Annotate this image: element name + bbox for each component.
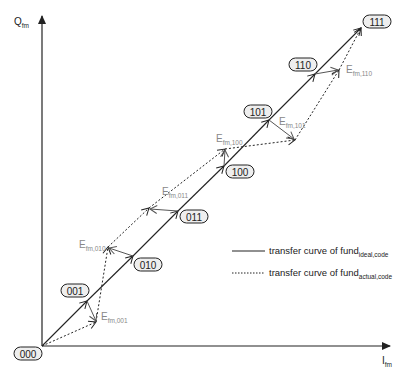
svg-text:011: 011 [186,212,202,223]
svg-text:001: 001 [67,286,84,297]
transfer-curve-diagram: Qfm Ifm 000 001 [0,0,407,382]
code-label-111: 111 [363,15,391,28]
svg-text:110: 110 [295,60,311,71]
code-label-010: 010 [134,258,162,271]
x-axis-label: Ifm [382,355,392,368]
error-label-110: Efm,110 [346,64,372,77]
code-label-101: 101 [244,105,272,118]
svg-text:100: 100 [232,167,249,178]
code-label-100: 100 [226,165,254,178]
error-vector-010 [109,248,133,256]
error-vectors [87,70,338,321]
error-label-001: Efm,001 [101,311,128,324]
legend-item-actual: transfer curve of fundactual,code [232,267,392,280]
code-label-110: 110 [289,58,317,71]
y-axis-label: Qfm [14,16,29,29]
svg-text:010: 010 [140,260,157,271]
svg-text:111: 111 [369,17,385,28]
svg-text:transfer curve of fundactual,c: transfer curve of fundactual,code [269,267,392,280]
legend: transfer curve of fundideal,code transfe… [232,245,392,280]
code-label-011: 011 [180,210,208,223]
svg-text:000: 000 [20,349,37,360]
error-label-010: Efm,010 [79,239,106,252]
error-label-101: Efm,101 [279,116,306,129]
error-labels: Efm,001 Efm,010 Efm,011 Efm,100 Efm,101 … [79,64,372,324]
code-label-000: 000 [14,347,42,360]
axes: Qfm Ifm [14,16,392,368]
legend-item-ideal: transfer curve of fundideal,code [232,245,389,258]
ideal-transfer-curve [42,28,361,346]
svg-text:transfer curve of fundideal,co: transfer curve of fundideal,code [269,245,389,258]
code-label-001: 001 [61,284,89,297]
error-label-100: Efm,100 [216,133,243,146]
svg-text:101: 101 [250,107,267,118]
error-vector-011 [150,209,178,211]
error-vector-100 [224,150,225,166]
error-vector-001 [87,301,96,321]
